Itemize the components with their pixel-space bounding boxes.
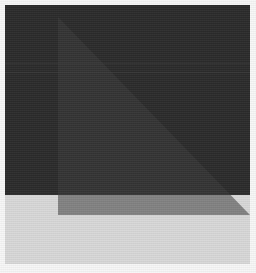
triangle-layer: [0, 0, 256, 273]
triangle-svg: [0, 0, 256, 273]
composition-canvas: [0, 0, 256, 273]
overlay-triangle: [58, 17, 250, 215]
